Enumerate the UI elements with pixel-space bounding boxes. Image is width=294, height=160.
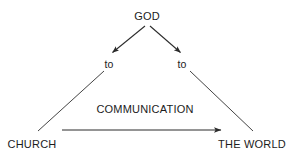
god-to-right-arrow (150, 26, 181, 53)
node-label-god: GOD (134, 11, 160, 22)
node-label-to-left: to (104, 59, 113, 70)
left-side-line (38, 71, 104, 131)
communication-triangle-diagram: GOD to to COMMUNICATION CHURCH THE WORLD (0, 0, 294, 160)
node-label-church: CHURCH (8, 139, 57, 150)
node-label-the-world: THE WORLD (218, 139, 286, 150)
right-side-line (190, 71, 253, 131)
god-to-left-arrow (113, 26, 146, 53)
diagram-canvas (0, 0, 294, 160)
edge-label-communication: COMMUNICATION (96, 104, 193, 115)
node-label-to-right: to (177, 59, 186, 70)
